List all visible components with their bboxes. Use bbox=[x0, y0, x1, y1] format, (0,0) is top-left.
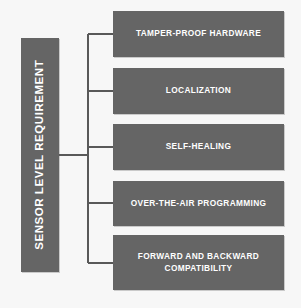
leaf-node-forward-and-backward-compatibility[interactable]: FORWARD AND BACKWARD COMPATIBILITY bbox=[113, 235, 284, 290]
leaf-node-self-healing[interactable]: SELF-HEALING bbox=[113, 124, 284, 170]
root-node-sensor-level-requirement[interactable]: SENSOR LEVEL REQUIREMENT bbox=[21, 38, 59, 272]
leaf-node-label: FORWARD AND BACKWARD COMPATIBILITY bbox=[119, 251, 278, 273]
leaf-node-label: SELF-HEALING bbox=[166, 141, 232, 152]
leaf-node-label: OVER-THE-AIR PROGRAMMING bbox=[131, 198, 267, 209]
diagram-canvas: SENSOR LEVEL REQUIREMENT TAMPER-PROOF HA… bbox=[0, 0, 301, 308]
leaf-node-label: LOCALIZATION bbox=[166, 85, 231, 96]
leaf-node-localization[interactable]: LOCALIZATION bbox=[113, 68, 284, 114]
leaf-node-over-the-air-programming[interactable]: OVER-THE-AIR PROGRAMMING bbox=[113, 181, 284, 226]
leaf-node-label: TAMPER-PROOF HARDWARE bbox=[136, 28, 261, 39]
leaf-node-tamper-proof-hardware[interactable]: TAMPER-PROOF HARDWARE bbox=[113, 11, 284, 57]
root-node-label: SENSOR LEVEL REQUIREMENT bbox=[34, 60, 46, 250]
